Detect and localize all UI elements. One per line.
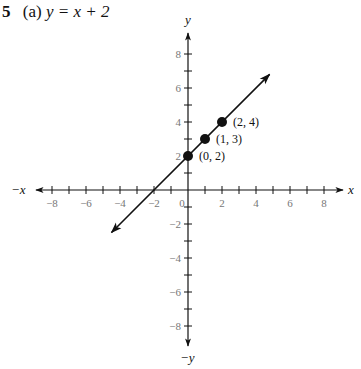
neg-y-axis-label: −y [180,350,195,365]
y-tick-label: 8 [176,48,182,60]
data-point [217,117,227,127]
coordinate-plane: −8−6−4−2024688642−2−4−6−8x−xy−y(0, 2)(1,… [0,0,361,369]
data-point [183,151,193,161]
x-tick-label: −8 [46,197,58,209]
y-tick-label: 4 [176,116,182,128]
y-tick-label: −6 [169,286,181,298]
neg-x-axis-label: −x [11,182,26,197]
x-tick-label: 6 [287,197,293,209]
x-axis-label: x [347,182,354,197]
data-point-label: (2, 4) [233,115,259,129]
y-axis-label: y [183,12,191,27]
x-tick-label: 8 [321,197,327,209]
x-tick-label: 0 [179,197,185,209]
y-tick-label: 6 [176,82,182,94]
y-tick-label: −8 [169,320,181,332]
x-tick-label: −6 [80,197,92,209]
y-tick-label: −4 [169,252,181,264]
y-tick-label: 2 [176,150,182,162]
x-tick-label: −2 [148,197,160,209]
data-point-label: (1, 3) [216,132,242,146]
data-point [200,134,210,144]
y-tick-label: −2 [169,218,181,230]
data-point-label: (0, 2) [199,149,225,163]
x-tick-label: −4 [114,197,126,209]
x-tick-label: 4 [253,197,259,209]
x-tick-label: 2 [219,197,225,209]
